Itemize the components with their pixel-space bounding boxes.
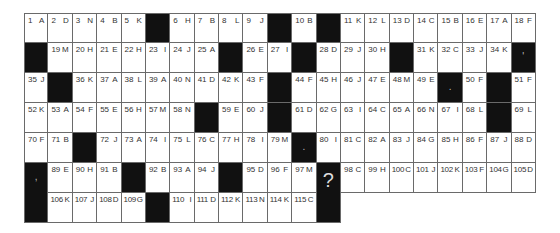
letter-cell-81[interactable]: 81C <box>341 133 365 163</box>
letter-cell-64[interactable]: 64C <box>365 103 389 133</box>
letter-cell-75[interactable]: 75L <box>170 133 194 163</box>
letter-cell-62[interactable]: 62G <box>317 103 341 133</box>
letter-cell-4[interactable]: 4B <box>97 13 121 43</box>
letter-cell-23[interactable]: 23I <box>146 43 170 73</box>
letter-cell-89[interactable]: 89E <box>48 163 72 193</box>
letter-cell-52[interactable]: 52K <box>24 103 48 133</box>
letter-cell-28[interactable]: 28D <box>317 43 341 73</box>
letter-cell-104[interactable]: 104G <box>487 163 511 193</box>
letter-cell-2[interactable]: 2D <box>48 13 72 43</box>
letter-cell-24[interactable]: 24J <box>170 43 194 73</box>
letter-cell-83[interactable]: 83J <box>390 133 414 163</box>
letter-cell-105[interactable]: 105D <box>512 163 536 193</box>
letter-cell-20[interactable]: 20H <box>73 43 97 73</box>
letter-cell-66[interactable]: 66N <box>414 103 438 133</box>
letter-cell-45[interactable]: 45H <box>317 73 341 103</box>
letter-cell-61[interactable]: 61D <box>292 103 316 133</box>
letter-cell-50[interactable]: 50F <box>463 73 487 103</box>
letter-cell-16[interactable]: 16E <box>463 13 487 43</box>
letter-cell-67[interactable]: 67I <box>438 103 462 133</box>
letter-cell-85[interactable]: 85H <box>438 133 462 163</box>
letter-cell-95[interactable]: 95D <box>243 163 267 193</box>
letter-cell-98[interactable]: 98C <box>341 163 365 193</box>
letter-cell-37[interactable]: 37A <box>97 73 121 103</box>
letter-cell-110[interactable]: 110I <box>170 193 194 223</box>
letter-cell-1[interactable]: 1A <box>24 13 48 43</box>
letter-cell-76[interactable]: 76C <box>195 133 219 163</box>
letter-cell-59[interactable]: 59E <box>219 103 243 133</box>
letter-cell-56[interactable]: 56H <box>122 103 146 133</box>
letter-cell-100[interactable]: 100C <box>390 163 414 193</box>
letter-cell-11[interactable]: 11K <box>341 13 365 43</box>
letter-cell-9[interactable]: 9J <box>243 13 267 43</box>
letter-cell-46[interactable]: 46J <box>341 73 365 103</box>
letter-cell-86[interactable]: 86F <box>463 133 487 163</box>
letter-cell-90[interactable]: 90H <box>73 163 97 193</box>
letter-cell-36[interactable]: 36K <box>73 73 97 103</box>
letter-cell-97[interactable]: 97M <box>292 163 316 193</box>
letter-cell-42[interactable]: 42K <box>219 73 243 103</box>
letter-cell-33[interactable]: 33J <box>463 43 487 73</box>
letter-cell-109[interactable]: 109G <box>122 193 146 223</box>
letter-cell-80[interactable]: 80I <box>317 133 341 163</box>
letter-cell-26[interactable]: 26E <box>243 43 267 73</box>
letter-cell-51[interactable]: 51F <box>512 73 536 103</box>
letter-cell-48[interactable]: 48M <box>390 73 414 103</box>
letter-cell-7[interactable]: 7B <box>195 13 219 43</box>
letter-cell-96[interactable]: 96F <box>268 163 292 193</box>
letter-cell-63[interactable]: 63I <box>341 103 365 133</box>
letter-cell-114[interactable]: 114K <box>268 193 292 223</box>
letter-cell-111[interactable]: 111D <box>195 193 219 223</box>
letter-cell-106[interactable]: 106K <box>48 193 72 223</box>
letter-cell-39[interactable]: 39A <box>146 73 170 103</box>
letter-cell-21[interactable]: 21E <box>97 43 121 73</box>
letter-cell-115[interactable]: 115C <box>292 193 316 223</box>
letter-cell-40[interactable]: 40N <box>170 73 194 103</box>
letter-cell-35[interactable]: 35J <box>24 73 48 103</box>
letter-cell-69[interactable]: 69L <box>512 103 536 133</box>
letter-cell-12[interactable]: 12L <box>365 13 389 43</box>
letter-cell-72[interactable]: 72J <box>97 133 121 163</box>
letter-cell-25[interactable]: 25A <box>195 43 219 73</box>
letter-cell-18[interactable]: 18F <box>512 13 536 43</box>
letter-cell-113[interactable]: 113N <box>243 193 267 223</box>
letter-cell-22[interactable]: 22H <box>122 43 146 73</box>
letter-cell-15[interactable]: 15B <box>438 13 462 43</box>
letter-cell-93[interactable]: 93A <box>170 163 194 193</box>
letter-cell-91[interactable]: 91B <box>97 163 121 193</box>
letter-cell-29[interactable]: 29J <box>341 43 365 73</box>
letter-cell-79[interactable]: 79M <box>268 133 292 163</box>
letter-cell-70[interactable]: 70F <box>24 133 48 163</box>
letter-cell-19[interactable]: 19M <box>48 43 72 73</box>
letter-cell-58[interactable]: 58N <box>170 103 194 133</box>
letter-cell-8[interactable]: 8L <box>219 13 243 43</box>
letter-cell-47[interactable]: 47E <box>365 73 389 103</box>
letter-cell-92[interactable]: 92B <box>146 163 170 193</box>
letter-cell-84[interactable]: 84G <box>414 133 438 163</box>
letter-cell-57[interactable]: 57M <box>146 103 170 133</box>
letter-cell-6[interactable]: 6H <box>170 13 194 43</box>
letter-cell-14[interactable]: 14C <box>414 13 438 43</box>
letter-cell-99[interactable]: 99H <box>365 163 389 193</box>
letter-cell-60[interactable]: 60J <box>243 103 267 133</box>
letter-cell-73[interactable]: 73A <box>122 133 146 163</box>
letter-cell-30[interactable]: 30H <box>365 43 389 73</box>
letter-cell-38[interactable]: 38L <box>122 73 146 103</box>
letter-cell-55[interactable]: 55E <box>97 103 121 133</box>
letter-cell-5[interactable]: 5K <box>122 13 146 43</box>
letter-cell-107[interactable]: 107J <box>73 193 97 223</box>
letter-cell-43[interactable]: 43F <box>243 73 267 103</box>
letter-cell-17[interactable]: 17A <box>487 13 511 43</box>
letter-cell-13[interactable]: 13D <box>390 13 414 43</box>
letter-cell-34[interactable]: 34K <box>487 43 511 73</box>
letter-cell-68[interactable]: 68L <box>463 103 487 133</box>
letter-cell-108[interactable]: 108D <box>97 193 121 223</box>
letter-cell-32[interactable]: 32C <box>438 43 462 73</box>
letter-cell-65[interactable]: 65A <box>390 103 414 133</box>
letter-cell-31[interactable]: 31K <box>414 43 438 73</box>
letter-cell-77[interactable]: 77H <box>219 133 243 163</box>
letter-cell-54[interactable]: 54F <box>73 103 97 133</box>
letter-cell-102[interactable]: 102K <box>438 163 462 193</box>
letter-cell-74[interactable]: 74I <box>146 133 170 163</box>
letter-cell-49[interactable]: 49E <box>414 73 438 103</box>
